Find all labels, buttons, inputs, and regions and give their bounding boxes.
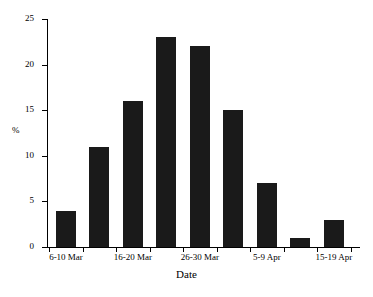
y-tick-label: 20 [0,60,34,69]
bar [89,147,109,247]
y-tick-mark [42,247,47,248]
y-axis-title: % [12,125,20,135]
bar [156,37,176,247]
x-tick-label: 15-19 Apr [294,252,373,263]
bar [223,110,243,247]
x-axis-line [47,247,360,248]
x-axis-title: Date [0,268,373,280]
y-tick-label: 0 [0,242,34,251]
bar-chart: 0510152025 6-10 Mar16-20 Mar26-30 Mar5-9… [0,0,373,297]
bars-layer [47,19,360,247]
y-tick-label: 5 [0,196,34,205]
y-tick-label: 25 [0,14,34,23]
y-tick-label: 10 [0,151,34,160]
bar [324,220,344,247]
bar [190,46,210,247]
bar [56,211,76,247]
bar [257,183,277,247]
bar [123,101,143,247]
bar [290,238,310,247]
y-tick-label: 15 [0,105,34,114]
